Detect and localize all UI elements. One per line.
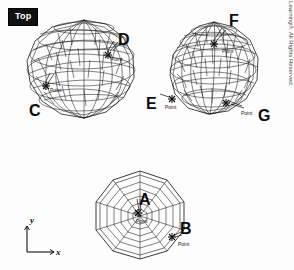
ucs-icon — [25, 226, 55, 255]
callout-letter-c: C — [29, 103, 41, 119]
osnap-marker-left-lower[interactable] — [42, 82, 50, 90]
right-sphere[interactable] — [170, 22, 258, 114]
callout-letter-g: G — [258, 108, 270, 124]
callout-letter-a: A — [139, 192, 151, 208]
axis-label-x: x — [56, 248, 61, 257]
osnap-marker-right-bottom[interactable] — [222, 99, 230, 107]
wireframe-geometry-layer — [0, 0, 294, 270]
osnap-label-top-edge: Point — [178, 242, 189, 247]
osnap-label-right-top: Point — [222, 49, 233, 54]
osnap-marker-right-left[interactable] — [168, 95, 176, 103]
copyright-notice: © 2014 Cengage Learning®. All Rights Res… — [288, 0, 294, 104]
callout-leaders-left — [45, 41, 120, 83]
osnap-label-left-upper: Point — [111, 57, 122, 62]
cad-viewport: Top A B C D E F G Point Point Point Poin… — [0, 0, 294, 270]
callout-letter-b: B — [180, 221, 192, 237]
osnap-marker-right-top[interactable] — [210, 40, 218, 48]
callout-letter-f: F — [229, 13, 239, 29]
callout-letter-e: E — [146, 96, 157, 112]
osnap-label-top-center: Point — [136, 219, 147, 224]
osnap-label-right-bottom: Point — [241, 111, 252, 116]
callout-leaders-right — [160, 28, 244, 108]
callout-letter-d: D — [118, 32, 130, 48]
axis-label-y: y — [30, 216, 34, 225]
top-view-polygon[interactable] — [96, 171, 184, 259]
osnap-marker-top-center[interactable] — [134, 209, 142, 217]
viewport-name-badge[interactable]: Top — [8, 8, 38, 26]
osnap-label-left-lower: Point — [50, 88, 61, 93]
osnap-marker-top-edge[interactable] — [168, 233, 176, 241]
osnap-label-right-left: Point — [165, 105, 176, 110]
